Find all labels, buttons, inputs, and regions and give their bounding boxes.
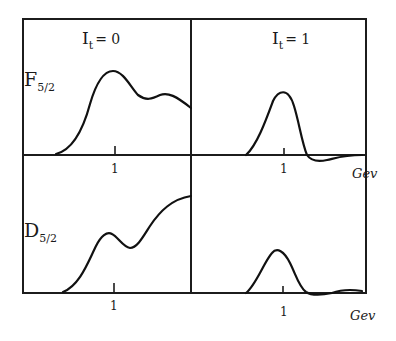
x-unit-label-top: Gev <box>352 166 378 181</box>
curve-f52-it0 <box>56 71 191 154</box>
tick-label-top-right: 1 <box>280 162 288 176</box>
row-label-f52: F5/2 <box>24 68 55 94</box>
curve-d52-it0 <box>63 196 191 292</box>
column-header-it0: It= 0 <box>82 28 120 52</box>
x-unit-label-bottom: Gev <box>350 308 376 323</box>
column-header-it1: It= 1 <box>272 28 310 52</box>
curve-d52-it1 <box>246 250 362 295</box>
tick-label-bottom-left: 1 <box>110 299 118 313</box>
tick-label-bottom-right: 1 <box>280 305 288 319</box>
row-label-d52: D5/2 <box>24 219 57 245</box>
tick-label-top-left: 1 <box>111 162 119 176</box>
curve-f52-it1 <box>246 92 362 161</box>
partial-wave-diagram: It= 0 It= 1 F5/2 D5/2 1 1 Gev 1 1 Gev <box>0 0 396 341</box>
